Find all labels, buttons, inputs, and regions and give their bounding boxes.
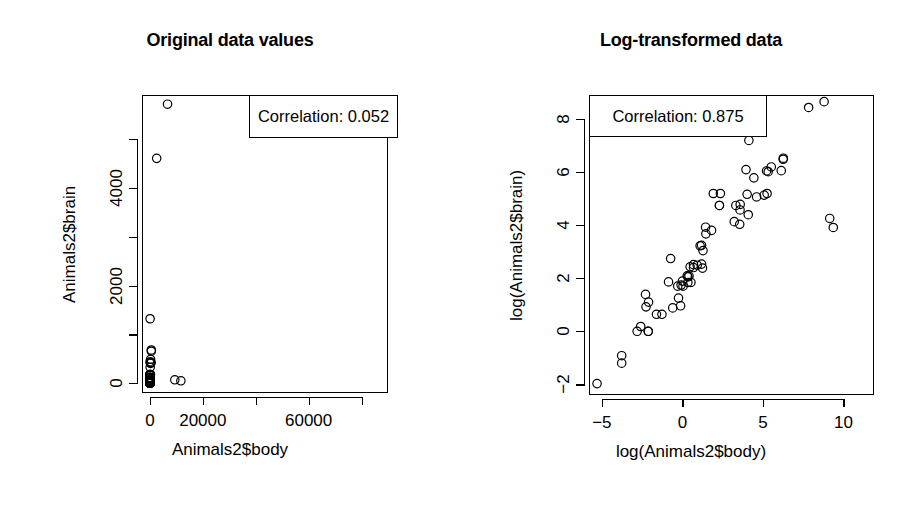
r-plot-figure: Original data values Correlation: 0.052 … — [0, 0, 921, 529]
data-point — [641, 290, 649, 298]
data-point — [171, 376, 179, 384]
x-axis-line — [602, 399, 844, 400]
y-tick — [129, 334, 138, 335]
y-tick — [129, 237, 138, 238]
y-tick-label: 6 — [554, 167, 574, 176]
panel-title-log: Log-transformed data — [461, 30, 921, 51]
x-axis-title-log: log(Animals2$body) — [461, 442, 921, 462]
y-tick-label: 0 — [107, 378, 127, 387]
data-point — [652, 310, 660, 318]
x-tick — [763, 399, 764, 407]
x-tick-label: 20000 — [179, 411, 226, 431]
panel-original-data: Original data values Correlation: 0.052 … — [0, 0, 460, 529]
x-tick — [602, 399, 603, 407]
x-tick — [150, 397, 151, 405]
panel-title-original: Original data values — [0, 30, 460, 51]
data-point — [644, 327, 652, 335]
x-tick-label: 0 — [678, 413, 687, 433]
plot-area-log: Correlation: 0.875 — [589, 95, 874, 395]
data-point — [593, 379, 601, 387]
data-point — [804, 103, 812, 111]
y-tick-label: 4000 — [107, 169, 127, 207]
data-point — [664, 278, 672, 286]
x-tick — [309, 397, 310, 405]
y-tick-label: 2000 — [107, 267, 127, 305]
legend-box-log: Correlation: 0.875 — [589, 95, 767, 137]
data-point — [742, 165, 750, 173]
y-axis-line — [137, 139, 138, 383]
y-tick — [576, 172, 585, 173]
y-axis-title-original: Animals2$brain — [60, 95, 80, 393]
data-point — [744, 211, 752, 219]
y-tick — [576, 278, 585, 279]
x-tick-label: 0 — [145, 411, 154, 431]
x-tick-label: −5 — [592, 413, 611, 433]
data-point — [760, 191, 768, 199]
data-point — [777, 166, 785, 174]
data-point — [715, 201, 723, 209]
y-tick — [576, 384, 585, 385]
data-point — [743, 190, 751, 198]
x-tick — [843, 399, 844, 407]
plot-area-original: Correlation: 0.052 — [142, 95, 388, 393]
y-tick — [129, 383, 138, 384]
x-tick — [256, 397, 257, 405]
y-tick — [576, 331, 585, 332]
data-point — [669, 304, 677, 312]
scatter-points-log — [589, 95, 874, 395]
legend-box-original: Correlation: 0.052 — [249, 95, 398, 138]
scatter-points-original — [142, 95, 388, 393]
x-tick — [203, 397, 204, 405]
y-tick — [576, 225, 585, 226]
legend-text-original: Correlation: 0.052 — [250, 107, 397, 126]
panel-log-transformed: Log-transformed data Correlation: 0.875 … — [461, 0, 921, 529]
data-point — [829, 223, 837, 231]
y-tick — [576, 119, 585, 120]
y-tick-label: 0 — [554, 327, 574, 336]
y-tick-label: 8 — [554, 114, 574, 123]
y-tick — [129, 286, 138, 287]
data-point — [163, 100, 171, 108]
y-tick-label: 4 — [554, 220, 574, 229]
data-point — [146, 315, 154, 323]
data-point — [750, 174, 758, 182]
data-point — [676, 302, 684, 310]
legend-text-log: Correlation: 0.875 — [604, 107, 751, 126]
x-axis-title-original: Animals2$body — [0, 440, 460, 460]
x-tick — [682, 399, 683, 407]
data-point — [745, 136, 753, 144]
x-tick — [362, 397, 363, 405]
y-axis-line — [584, 119, 585, 384]
x-tick-label: 60000 — [285, 411, 332, 431]
data-point — [826, 214, 834, 222]
y-tick-label: −2 — [554, 375, 574, 394]
y-tick — [129, 139, 138, 140]
y-tick-label: 2 — [554, 273, 574, 282]
y-axis-title-log: log(Animals2$brain) — [507, 95, 527, 395]
y-tick — [129, 188, 138, 189]
data-point — [820, 97, 828, 105]
data-point — [674, 294, 682, 302]
data-point — [152, 154, 160, 162]
data-point — [666, 254, 674, 262]
x-tick-label: 5 — [758, 413, 767, 433]
x-tick-label: 10 — [834, 413, 853, 433]
